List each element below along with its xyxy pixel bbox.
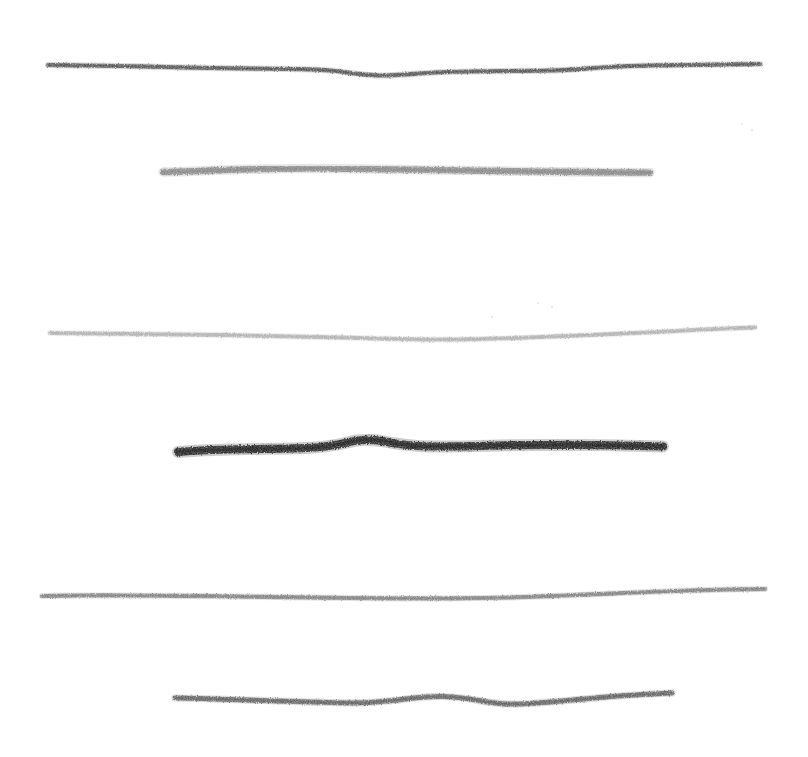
stroke-5-medium-gray-long: [42, 589, 765, 598]
speck-mid-upper-a: [537, 302, 539, 304]
artwork-canvas: [0, 0, 808, 757]
stroke-layer: [0, 0, 808, 757]
strokes-group: [42, 64, 765, 704]
speck-upper-right-b: [751, 129, 753, 131]
speck-mid-upper-b: [551, 306, 553, 308]
speck-mid-right: [491, 316, 493, 318]
